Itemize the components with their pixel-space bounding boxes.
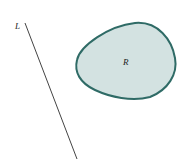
line-label: L: [14, 21, 20, 31]
line-l: [25, 23, 77, 159]
diagram-canvas: L R: [0, 0, 187, 166]
region-label: R: [122, 57, 129, 67]
